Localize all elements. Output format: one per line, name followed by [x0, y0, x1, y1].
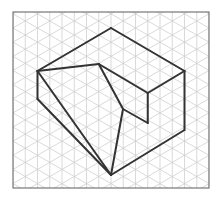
- isometric-grid-diagram: [0, 0, 221, 197]
- grid-line: [0, 0, 221, 87]
- grid-line: [0, 0, 221, 158]
- grid-line: [0, 195, 221, 197]
- grid-line: [0, 0, 221, 115]
- grid-line: [0, 0, 221, 2]
- grid-line: [0, 195, 221, 197]
- grid-line: [0, 0, 221, 2]
- grid-line: [0, 0, 221, 73]
- grid-line: [0, 0, 221, 44]
- grid-line: [0, 0, 221, 87]
- grid-line: [0, 0, 221, 115]
- grid-line: [0, 0, 221, 158]
- grid-line: [0, 0, 221, 73]
- grid-line: [0, 0, 221, 44]
- isometric-grid: [0, 0, 221, 197]
